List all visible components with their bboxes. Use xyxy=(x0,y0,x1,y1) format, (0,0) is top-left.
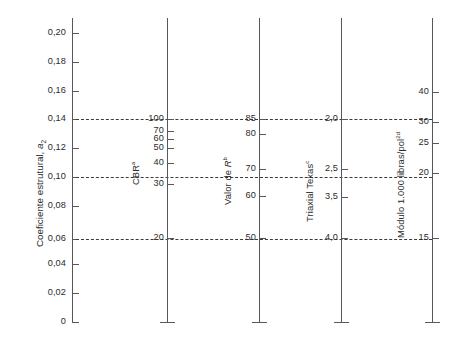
cbr-tick xyxy=(167,119,174,120)
y-tick-label: 0,16 xyxy=(22,85,66,95)
y-tick-label: 0 xyxy=(22,316,66,326)
modulo-tick xyxy=(432,92,439,93)
triaxial-texas-tick xyxy=(341,119,348,120)
valor-r-tick-label: 50 xyxy=(218,232,256,242)
y-axis-title: Coeficiente estrutural, a2 xyxy=(34,140,45,247)
y-tick-label: 0,04 xyxy=(22,258,66,268)
y-tick xyxy=(72,322,79,323)
valor-r-tick xyxy=(259,196,266,197)
valor-r-tick xyxy=(259,119,266,120)
y-tick-label: 0,10 xyxy=(22,171,66,181)
y-axis-line xyxy=(72,18,73,322)
y-tick xyxy=(72,148,79,149)
valor-r-tick-label: 80 xyxy=(218,128,256,138)
valor-r-axis-line xyxy=(259,18,260,322)
y-tick-label: 0,08 xyxy=(22,200,66,210)
cbr-tick-label: 20 xyxy=(124,232,164,242)
y-tick-label: 0,14 xyxy=(22,113,66,123)
triaxial-texas-tick-label: 3,5 xyxy=(296,191,338,201)
valor-r-axis-footnote: b xyxy=(222,157,228,160)
valor-r-axis-bottom-cap xyxy=(252,322,267,323)
valor-r-tick xyxy=(259,169,266,170)
y-tick-label: 0,18 xyxy=(22,56,66,66)
y-tick-label: 0,20 xyxy=(22,27,66,37)
cbr-tick xyxy=(167,131,174,132)
triaxial-texas-tick xyxy=(341,169,348,170)
cbr-axis-bottom-cap xyxy=(160,322,175,323)
cbr-tick-label: 50 xyxy=(124,142,164,152)
y-tick-label: 0,12 xyxy=(22,142,66,152)
y-tick xyxy=(72,33,79,34)
cbr-tick-label: 30 xyxy=(124,178,164,188)
triaxial-texas-axis-bottom-cap xyxy=(334,322,349,323)
cbr-axis-line xyxy=(167,18,168,322)
cbr-tick xyxy=(167,184,174,185)
triaxial-texas-tick xyxy=(341,238,348,239)
y-tick xyxy=(72,91,79,92)
cbr-tick-label: 100 xyxy=(124,113,164,123)
modulo-tick-label: 15 xyxy=(390,232,429,242)
y-tick-label: 0,06 xyxy=(22,233,66,243)
modulo-axis-title: Módulo 1.000 libras/pol2d xyxy=(395,132,406,238)
y-tick xyxy=(72,293,79,294)
cbr-tick xyxy=(167,163,174,164)
modulo-tick xyxy=(432,143,439,144)
cbr-tick xyxy=(167,148,174,149)
modulo-axis-bottom-cap xyxy=(425,322,440,323)
y-tick-label: 0,02 xyxy=(22,287,66,297)
valor-r-tick xyxy=(259,238,266,239)
triaxial-texas-tick-label: 2,5 xyxy=(296,163,338,173)
modulo-axis-title-text: Módulo 1.000 libras/pol xyxy=(395,139,406,238)
y-tick xyxy=(72,62,79,63)
modulo-tick xyxy=(432,238,439,239)
y-tick xyxy=(72,206,79,207)
modulo-tick xyxy=(432,173,439,174)
triaxial-texas-tick-label: 2,0 xyxy=(296,113,338,123)
modulo-tick-label: 25 xyxy=(390,137,429,147)
modulo-axis-line xyxy=(432,18,433,322)
valor-r-tick-label: 85 xyxy=(218,113,256,123)
triaxial-texas-tick-label: 4,0 xyxy=(296,232,338,242)
cbr-tick xyxy=(167,238,174,239)
valor-r-tick-label: 70 xyxy=(218,163,256,173)
cbr-tick-label: 40 xyxy=(124,157,164,167)
cbr-tick xyxy=(167,139,174,140)
modulo-tick-label: 30 xyxy=(390,116,429,126)
valor-r-tick xyxy=(259,134,266,135)
triaxial-texas-tick xyxy=(341,197,348,198)
modulo-tick-label: 20 xyxy=(390,167,429,177)
modulo-tick-label: 40 xyxy=(390,86,429,96)
triaxial-texas-axis-line xyxy=(341,18,342,322)
nomograph-figure: Coeficiente estrutural, a2 0,20 0,18 0,1… xyxy=(0,0,468,347)
valor-r-tick-label: 60 xyxy=(218,190,256,200)
y-tick xyxy=(72,264,79,265)
modulo-tick xyxy=(432,122,439,123)
